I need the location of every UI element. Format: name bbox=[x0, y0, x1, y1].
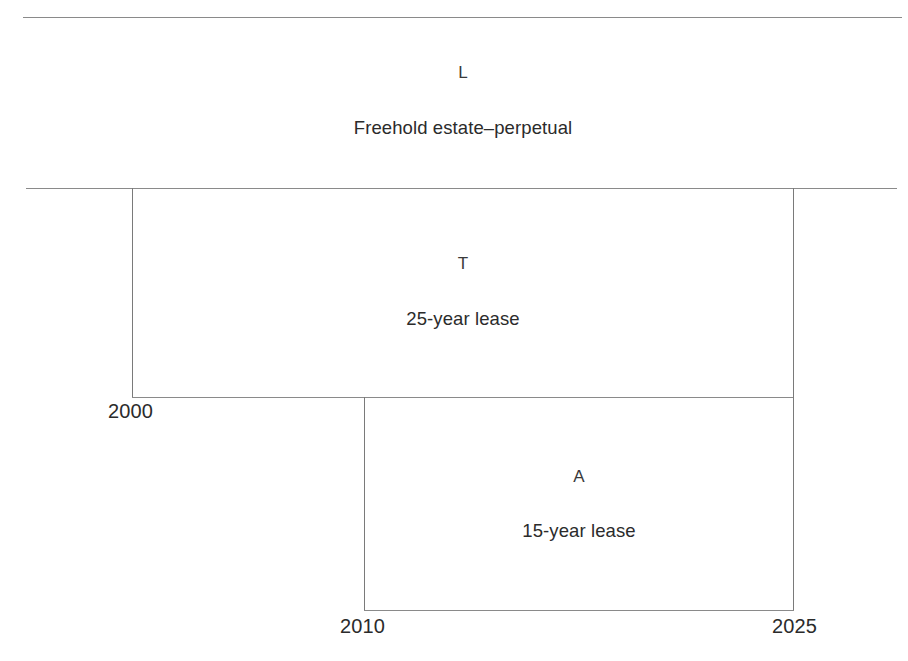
tier-description-a: 15-year lease bbox=[522, 520, 635, 542]
tier-code-l: L bbox=[458, 63, 468, 83]
a-lease-left-edge bbox=[364, 397, 365, 611]
tier-description-t: 25-year lease bbox=[406, 308, 519, 330]
tier-code-a: A bbox=[573, 467, 584, 487]
year-marker-2000: 2000 bbox=[108, 400, 153, 423]
t-lease-bottom-edge bbox=[132, 397, 794, 398]
diagram-canvas: L Freehold estate–perpetual T 25-year le… bbox=[0, 0, 908, 661]
year-marker-2025: 2025 bbox=[772, 615, 817, 638]
a-lease-bottom-edge bbox=[364, 610, 794, 611]
tier-description-l: Freehold estate–perpetual bbox=[354, 117, 572, 139]
top-rule bbox=[23, 17, 902, 18]
t-lease-right-edge bbox=[793, 188, 794, 398]
t-lease-left-edge bbox=[132, 188, 133, 398]
tier-code-t: T bbox=[458, 254, 468, 274]
freehold-lower-boundary-rule bbox=[26, 188, 897, 189]
year-marker-2010: 2010 bbox=[340, 615, 385, 638]
a-lease-right-edge bbox=[793, 397, 794, 611]
